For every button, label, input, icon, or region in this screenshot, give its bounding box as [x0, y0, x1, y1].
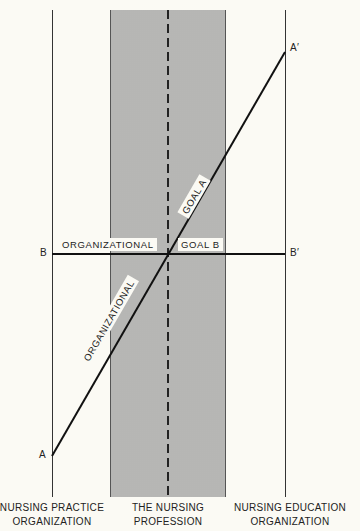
organizational-goals-diagram: A A′ B B′ ORGANIZATIONAL GOAL B ORGANIZA…	[0, 0, 360, 531]
goal-a-line	[0, 0, 360, 531]
point-a-prime-label: A′	[290, 42, 299, 53]
horizontal-organizational-label: ORGANIZATIONAL	[59, 238, 157, 251]
column-label-nursing-profession: THE NURSING PROFESSION	[118, 501, 218, 529]
point-a-label: A	[39, 449, 46, 460]
point-b-label: B	[40, 247, 47, 258]
column-label-nursing-education: NURSING EDUCATION ORGANIZATION	[228, 501, 352, 529]
horizontal-goal-b-label: GOAL B	[178, 238, 223, 251]
column-label-nursing-practice: NURSING PRACTICE ORGANIZATION	[0, 501, 108, 529]
point-b-prime-label: B′	[290, 247, 299, 258]
